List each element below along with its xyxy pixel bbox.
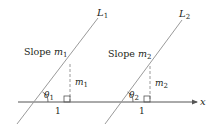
run-1-label-line1: 1: [55, 106, 61, 116]
rise-m2-label: m2: [155, 78, 168, 90]
right-angle-marker-1: [64, 96, 70, 102]
theta2-label: θ2: [129, 90, 139, 102]
slope-m2-label: Slope m2: [108, 48, 152, 61]
rise-m1-label: m1: [75, 77, 88, 89]
right-angle-marker-2: [144, 96, 150, 102]
line-l2-label: L2: [178, 8, 190, 21]
slope-diagram: x L1 Slope m1 m1 θ1 1 L2 Slope m2 m2 θ2 …: [0, 0, 215, 132]
x-axis-label: x: [200, 96, 206, 107]
run-1-label-line2: 1: [139, 106, 145, 116]
theta1-label: θ1: [44, 90, 54, 102]
slope-m1-label: Slope m1: [24, 46, 68, 59]
